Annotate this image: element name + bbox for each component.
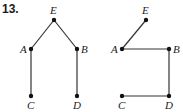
vertex-label-C: C: [27, 99, 35, 111]
vertex-A: [29, 47, 33, 51]
vertex-B: [75, 47, 79, 51]
vertex-B: [167, 47, 171, 51]
vertex-label-E: E: [141, 4, 149, 16]
vertex-label-D: D: [72, 99, 81, 111]
edge-EB: [54, 20, 77, 49]
vertex-label-A: A: [110, 43, 118, 55]
vertex-label-E: E: [49, 4, 57, 16]
vertex-label-C: C: [118, 99, 126, 111]
edge-EA: [122, 20, 146, 49]
vertex-label-A: A: [19, 43, 27, 55]
edge-EA: [31, 20, 54, 49]
graph-diagram: EABCDEABCD: [0, 0, 183, 112]
vertex-label-B: B: [173, 43, 180, 55]
vertex-label-D: D: [164, 99, 173, 111]
vertex-E: [52, 18, 56, 22]
graph-2: EABCD: [110, 4, 180, 111]
vertex-label-B: B: [81, 43, 88, 55]
graph-1: EABCD: [19, 4, 88, 111]
vertex-D: [75, 94, 79, 98]
vertex-C: [29, 94, 33, 98]
vertex-C: [120, 94, 124, 98]
vertex-E: [144, 18, 148, 22]
vertex-D: [167, 94, 171, 98]
vertex-A: [120, 47, 124, 51]
